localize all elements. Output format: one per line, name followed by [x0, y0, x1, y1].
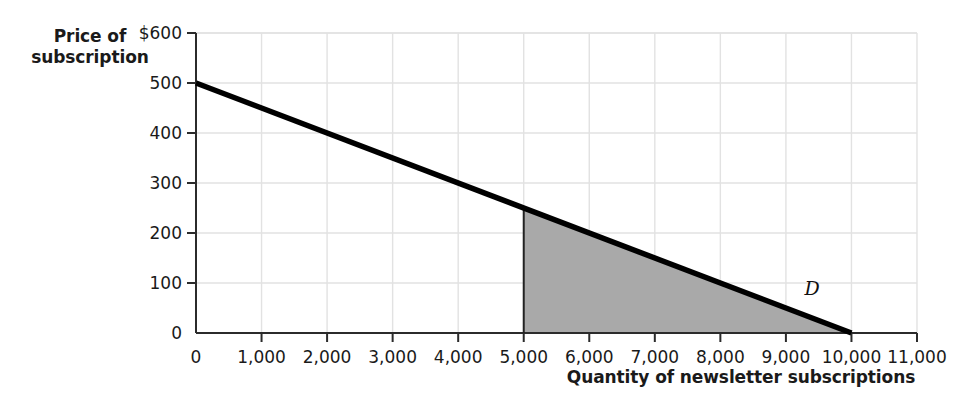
y-tick-label: 200 [150, 223, 182, 243]
x-tick-label: 7,000 [630, 347, 679, 367]
x-tick-label: 4,000 [434, 347, 483, 367]
x-tick-label: 8,000 [696, 347, 745, 367]
x-tick-label: 6,000 [565, 347, 614, 367]
y-tick-label: 100 [150, 273, 182, 293]
x-tick-label: 10,000 [822, 347, 881, 367]
x-tick-label: 9,000 [762, 347, 811, 367]
y-tick-label: 300 [150, 173, 182, 193]
x-tick-label: 0 [191, 347, 202, 367]
y-tick-label: $600 [139, 23, 182, 43]
x-axis-title: Quantity of newsletter subscriptions [556, 367, 926, 387]
y-tick-label: 0 [171, 323, 182, 343]
x-tick-label: 5,000 [499, 347, 548, 367]
x-tick-label: 1,000 [237, 347, 286, 367]
x-tick-label: 2,000 [303, 347, 352, 367]
demand-curve-label: D [805, 277, 820, 299]
demand-curve-figure: Price of subscription 0100200300400500$6… [0, 0, 956, 419]
x-tick-label: 3,000 [368, 347, 417, 367]
y-axis-title-line-2: subscription [20, 47, 160, 68]
y-tick-label: 500 [150, 73, 182, 93]
y-tick-label: 400 [150, 123, 182, 143]
x-tick-label: 11,000 [887, 347, 946, 367]
